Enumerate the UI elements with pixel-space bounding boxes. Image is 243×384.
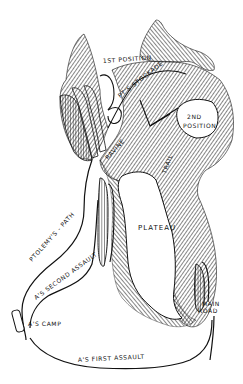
label-main-road-1: MAIN — [202, 300, 220, 307]
first-assault-line — [30, 320, 212, 369]
label-main-road-2: ROAD — [198, 307, 218, 314]
label-first-assault: A'S FIRST ASSAULT — [78, 353, 145, 363]
label-second-position-2: POSITION — [183, 122, 216, 129]
label-second-assault: A'S SECOND ASSAULT — [32, 250, 98, 301]
sketch-map: 1ST POSITION PT'S STOCKADE 2ND POSITION … — [0, 0, 243, 384]
ptolemys-path-line — [22, 160, 92, 340]
label-plateau: PLATEAU — [138, 224, 176, 232]
map-canvas: 1ST POSITION PT'S STOCKADE 2ND POSITION … — [0, 0, 243, 384]
label-ptolemys-path: PTOLEMY'S - PATH — [28, 210, 76, 262]
label-camp: A'S CAMP — [28, 320, 61, 327]
label-second-position-1: 2ND — [187, 113, 202, 120]
